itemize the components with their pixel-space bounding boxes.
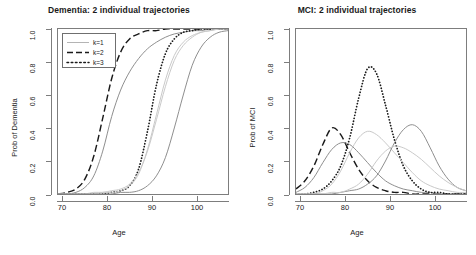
y-tick (46, 195, 51, 196)
panel-mci: MCI: 2 individual trajectories Prob of M… (238, 0, 476, 255)
x-tick-label: 70 (285, 203, 315, 212)
y-tick-label: 0.6 (260, 90, 282, 100)
x-axis-title-dementia: Age (0, 228, 238, 237)
curve-k-1-individual-a (296, 125, 466, 194)
y-tick (46, 161, 51, 162)
legend-key-dotted-icon (66, 58, 90, 67)
y-tick-label: 0.0 (22, 190, 44, 200)
y-tick-label: 0.0 (260, 190, 282, 200)
x-tick (300, 196, 301, 201)
y-axis-line (51, 28, 52, 195)
x-tick (107, 196, 108, 201)
y-tick (46, 62, 51, 63)
y-tick-label: 0.2 (22, 157, 44, 167)
y-tick (284, 161, 289, 162)
y-tick (284, 29, 289, 30)
legend-key-dashed-icon (66, 48, 90, 57)
curve-k-1-individual-b (296, 146, 466, 194)
legend-key-solid-icon (66, 38, 90, 47)
y-tick-label: 1.0 (22, 24, 44, 34)
x-tick (62, 196, 63, 201)
plot-curves-mci (296, 29, 466, 194)
legend-item-k3: k=3 (66, 57, 112, 67)
x-axis-title-mci: Age (238, 228, 476, 237)
y-tick (284, 128, 289, 129)
x-tick-label: 90 (375, 203, 405, 212)
x-axis-line (57, 201, 229, 202)
plot-area-mci (295, 28, 467, 195)
panel-title-dementia: Dementia: 2 individual trajectories (0, 5, 238, 15)
panel-title-mci: MCI: 2 individual trajectories (238, 5, 476, 15)
x-tick-label: 80 (92, 203, 122, 212)
x-tick-label: 70 (47, 203, 77, 212)
x-axis-line (295, 201, 467, 202)
y-tick (46, 128, 51, 129)
y-tick (46, 29, 51, 30)
panel-dementia: Dementia: 2 individual trajectories Prob… (0, 0, 238, 255)
x-tick (152, 196, 153, 201)
x-tick-label: 100 (420, 203, 450, 212)
y-tick (284, 95, 289, 96)
x-tick (390, 196, 391, 201)
y-axis-line (289, 28, 290, 195)
y-tick-label: 1.0 (260, 24, 282, 34)
legend-label-k1: k=1 (93, 39, 104, 46)
x-tick-label: 80 (330, 203, 360, 212)
legend-label-k2: k=2 (93, 49, 104, 56)
y-axis-title-mci: Prob of MCI (246, 0, 258, 255)
y-tick (284, 195, 289, 196)
legend-box: k=1 k=2 k=3 (62, 33, 116, 68)
curve-k-3-individual-b (296, 131, 466, 194)
y-tick-label: 0.8 (22, 57, 44, 67)
x-tick-label: 90 (137, 203, 167, 212)
figure-two-panel-trajectories: Dementia: 2 individual trajectories Prob… (0, 0, 476, 255)
legend-item-k2: k=2 (66, 47, 112, 57)
y-tick-label: 0.2 (260, 157, 282, 167)
y-axis-title-dementia: Prob of Dementia (8, 0, 20, 255)
x-tick (345, 196, 346, 201)
legend-item-k1: k=1 (66, 37, 112, 47)
y-tick-label: 0.4 (22, 124, 44, 134)
y-tick (284, 62, 289, 63)
x-tick (197, 196, 198, 201)
y-tick (46, 95, 51, 96)
y-tick-label: 0.4 (260, 124, 282, 134)
y-tick-label: 0.8 (260, 57, 282, 67)
x-tick-label: 100 (182, 203, 212, 212)
x-tick (435, 196, 436, 201)
legend-label-k3: k=3 (93, 59, 104, 66)
y-tick-label: 0.6 (22, 90, 44, 100)
curve-k-2-individual-a (296, 128, 466, 194)
curve-k-3-individual-a (296, 67, 466, 194)
